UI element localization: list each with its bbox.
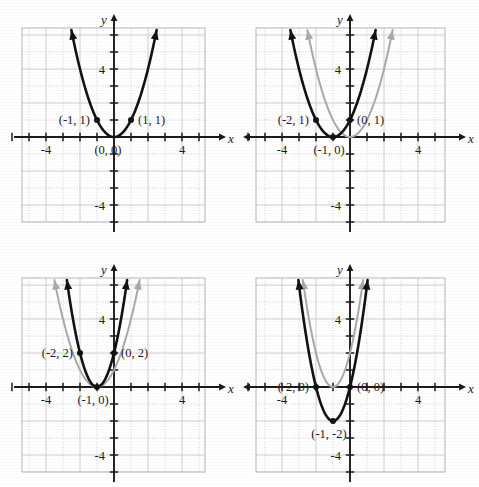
figure-panel-grid: xy-444-4(-1, 1)(1, 1)(0, 0)xy-444-4(-2, …: [0, 0, 479, 487]
data-point-marker: [94, 384, 100, 390]
graph-panel-1: xy-444-4(-1, 1)(1, 1)(0, 0): [0, 0, 239, 243]
y-tick-label-negative: -4: [95, 199, 106, 213]
data-point-marker: [347, 384, 353, 390]
point-label: (-2, 2): [42, 346, 73, 360]
y-tick-label-negative: -4: [95, 449, 106, 463]
x-tick-label-positive: 4: [415, 393, 422, 407]
x-axis-label: x: [227, 381, 234, 396]
data-point-marker: [313, 384, 319, 390]
point-label: (-1, 0): [313, 143, 344, 157]
y-tick-label-positive: 4: [335, 313, 342, 327]
x-tick-label-positive: 4: [415, 143, 422, 157]
data-point-marker: [347, 117, 353, 123]
y-tick-label-negative: -4: [331, 199, 342, 213]
x-axis-label: x: [227, 131, 234, 146]
data-point-marker: [313, 117, 319, 123]
y-axis-label: y: [99, 12, 107, 27]
y-axis-label: y: [335, 262, 343, 277]
point-label: (-2, 1): [278, 113, 309, 127]
y-axis-label: y: [335, 12, 343, 27]
point-label: (1, 1): [138, 113, 165, 127]
point-label: (-1, 0): [77, 393, 108, 407]
x-tick-label-negative: -4: [41, 393, 52, 407]
point-label: (0, 0): [357, 380, 384, 394]
x-axis-label: x: [467, 381, 474, 396]
axes: [243, 14, 466, 232]
data-point-marker: [330, 134, 336, 140]
y-tick-label-positive: 4: [99, 63, 106, 77]
x-tick-label-negative: -4: [277, 143, 288, 157]
point-label: (-2, 0): [278, 380, 309, 394]
x-axis-label: x: [467, 131, 474, 146]
graph-panel-4: xy-444-4(-2, 0)(0, 0)(-1, -2): [240, 244, 479, 487]
x-tick-label-negative: -4: [277, 393, 288, 407]
data-point-marker: [111, 350, 117, 356]
axes: [12, 264, 226, 482]
point-label: (0, 1): [357, 113, 384, 127]
x-tick-label-negative: -4: [41, 143, 52, 157]
y-tick-label-positive: 4: [99, 313, 106, 327]
data-point-marker: [330, 418, 336, 424]
x-tick-label-positive: 4: [179, 393, 186, 407]
data-point-marker: [128, 117, 134, 123]
graph-panel-3: xy-444-4(-2, 2)(0, 2)(-1, 0): [0, 244, 239, 487]
data-point-marker: [77, 350, 83, 356]
data-point-marker: [94, 117, 100, 123]
point-label: (0, 0): [94, 143, 121, 157]
point-label: (-1, -2): [311, 427, 346, 441]
y-axis-label: y: [99, 262, 107, 277]
graph-panel-2: xy-444-4(-2, 1)(0, 1)(-1, 0): [240, 0, 479, 243]
point-label: (-1, 1): [59, 113, 90, 127]
x-tick-label-positive: 4: [179, 143, 186, 157]
axes: [12, 14, 226, 232]
y-tick-label-positive: 4: [335, 63, 342, 77]
y-tick-label-negative: -4: [331, 449, 342, 463]
point-label: (0, 2): [121, 346, 148, 360]
